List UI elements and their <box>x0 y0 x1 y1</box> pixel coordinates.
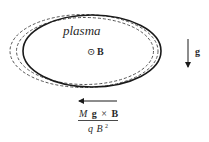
formula-exponent: 2 <box>105 123 108 129</box>
formula-B-denominator: B <box>97 123 103 134</box>
svg-text:M g × B: M g × B <box>78 108 118 119</box>
plasma-drift-diagram: plasma ⊙ B g M g × B q B 2 <box>0 0 209 142</box>
formula-mass: M <box>78 108 88 119</box>
formula-charge: q <box>88 123 93 134</box>
formula-cross: × <box>101 108 107 119</box>
formula-g: g <box>92 108 97 119</box>
drift-velocity-formula: M g × B q B 2 <box>78 108 118 134</box>
field-label: B <box>97 46 104 57</box>
formula-B: B <box>111 108 118 119</box>
plasma-label: plasma <box>62 23 101 38</box>
svg-text:q B 2: q B 2 <box>88 123 108 134</box>
gravity-label: g <box>195 46 200 57</box>
field-out-of-page-icon: ⊙ <box>87 46 95 57</box>
